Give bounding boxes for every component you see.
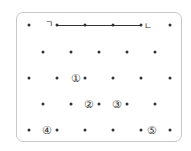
grid-dot [126, 51, 129, 54]
grid-dot [169, 129, 172, 132]
grid-dot [140, 129, 143, 132]
grid-dot [42, 51, 45, 54]
segment-start-label: ㄱ [45, 20, 53, 29]
grid-dot [140, 24, 143, 27]
grid-dot [84, 24, 87, 27]
grid-dot [70, 51, 73, 54]
grid-dot [28, 24, 31, 27]
choice-4: ④ [42, 125, 52, 136]
grid-dot [169, 77, 172, 80]
choice-2: ② [84, 99, 94, 110]
grid-dot [84, 77, 87, 80]
choice-5: ⑤ [147, 125, 157, 136]
grid-dot [112, 129, 115, 132]
grid-dot [42, 103, 45, 106]
grid-dot [28, 129, 31, 132]
grid-dot [56, 77, 59, 80]
grid-dot [154, 51, 157, 54]
choice-3: ③ [112, 99, 122, 110]
grid-dot [70, 103, 73, 106]
diagram-frame [16, 12, 182, 142]
grid-dot [112, 77, 115, 80]
segment-line [57, 25, 141, 26]
grid-dot [56, 129, 59, 132]
grid-dot [98, 103, 101, 106]
choice-1: ① [71, 73, 81, 84]
grid-dot [169, 24, 172, 27]
grid-dot [84, 129, 87, 132]
grid-dot [112, 24, 115, 27]
grid-dot [154, 103, 157, 106]
grid-dot [98, 51, 101, 54]
grid-dot [126, 103, 129, 106]
grid-dot [56, 24, 59, 27]
grid-dot [28, 77, 31, 80]
segment-end-label: ㄴ [144, 22, 152, 31]
grid-dot [140, 77, 143, 80]
